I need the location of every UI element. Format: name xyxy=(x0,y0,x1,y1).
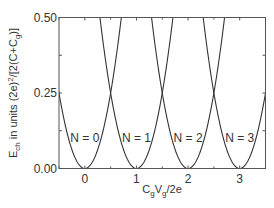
label-n2: N = 2 xyxy=(174,131,203,145)
charging-energy-chart: 0.000.250.50 0123 N = 0N = 1N = 2N = 3 C… xyxy=(0,0,274,208)
charge-state-labels: N = 0N = 1N = 2N = 3 xyxy=(70,131,254,145)
x-tick-label: 3 xyxy=(236,172,243,186)
y-tick-label: 0.00 xyxy=(34,162,58,176)
y-tick-label: 0.25 xyxy=(34,86,58,100)
x-tick-label: 0 xyxy=(81,172,88,186)
x-tick-label: 1 xyxy=(133,172,140,186)
label-n0: N = 0 xyxy=(70,131,99,145)
y-tick-label: 0.50 xyxy=(34,11,58,25)
y-axis-label: Ech in units (2e)2/[2(C+Cg)] xyxy=(6,28,22,158)
label-n1: N = 1 xyxy=(122,131,151,145)
x-axis-ticks: 0123 xyxy=(59,18,266,186)
label-n3: N = 3 xyxy=(225,131,254,145)
x-tick-label: 2 xyxy=(185,172,192,186)
y-axis-ticks: 0.000.250.50 xyxy=(34,11,266,176)
x-axis-label: CgVg/2e xyxy=(142,183,182,198)
